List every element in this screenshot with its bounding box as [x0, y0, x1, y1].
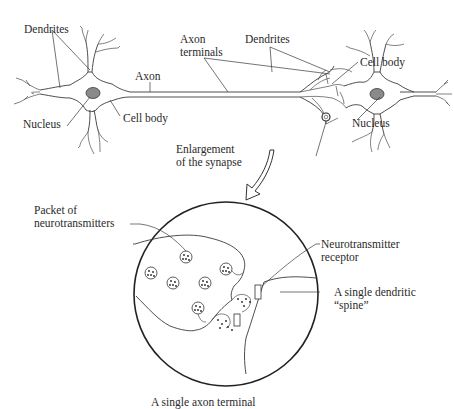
label-left-cell-body: Cell body — [123, 112, 168, 125]
receptor-1 — [255, 285, 261, 299]
label-receptor-2: receptor — [321, 251, 359, 264]
label-packet-2: neurotransmitters — [34, 217, 114, 230]
label-right-dendrites: Dendrites — [245, 33, 290, 46]
label-left-dendrites: Dendrites — [24, 23, 69, 36]
right-neuron — [344, 30, 452, 152]
synapse-marker — [322, 113, 330, 121]
figure-caption: A single axon terminal — [151, 396, 255, 409]
label-enlargement-2: of the synapse — [176, 156, 242, 169]
label-right-cell-body: Cell body — [360, 56, 405, 69]
label-spine-2: “spine” — [334, 299, 368, 312]
label-spine-1: A single dendritic — [334, 286, 416, 299]
label-axon-terminals-2: terminals — [180, 46, 223, 59]
receptor-2 — [234, 314, 240, 326]
axon-terminals — [300, 66, 352, 124]
enlargement-circle — [134, 202, 318, 386]
synapse-enlargement — [130, 202, 320, 386]
label-enlargement-1: Enlargement — [176, 143, 235, 156]
top-leader-lines — [52, 30, 380, 126]
enlargement-arrow — [246, 122, 326, 200]
right-nucleus-shape — [370, 89, 384, 100]
label-axon-terminals-1: Axon — [180, 33, 206, 46]
left-nucleus-shape — [86, 88, 100, 99]
label-packet-1: Packet of — [34, 204, 77, 217]
label-receptor-1: Neurotransmitter — [321, 238, 400, 251]
label-right-nucleus: Nucleus — [352, 117, 390, 130]
label-axon: Axon — [135, 70, 161, 83]
label-left-nucleus: Nucleus — [23, 118, 61, 131]
